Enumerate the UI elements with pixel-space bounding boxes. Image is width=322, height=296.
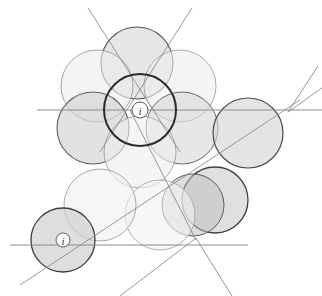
marker-bottom-left-label: i <box>61 235 64 247</box>
marker-center-label: i <box>138 105 141 117</box>
marker-bottom-left[interactable]: i <box>56 233 70 247</box>
figure-root: ii <box>0 0 322 296</box>
marker-center[interactable]: i <box>132 102 148 118</box>
circle-bottom-mid <box>125 180 195 250</box>
circle-packing-figure: ii <box>0 0 322 296</box>
circle-far-right <box>213 98 283 168</box>
